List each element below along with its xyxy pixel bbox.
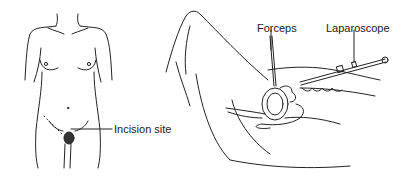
front-torso-figure xyxy=(25,14,112,168)
laparoscope-label: Laparoscope xyxy=(326,23,390,34)
forceps-label: Forceps xyxy=(257,23,297,34)
incision-site-label: Incision site xyxy=(114,124,171,135)
side-cross-section-figure xyxy=(166,11,388,167)
